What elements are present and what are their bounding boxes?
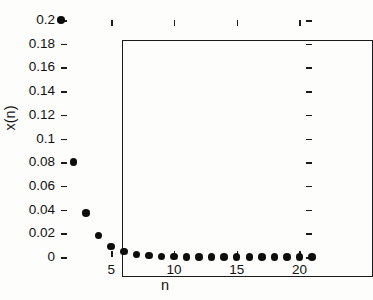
- y-tick-mark-right: [306, 115, 312, 117]
- x-tick-label: 15: [217, 263, 257, 277]
- plot-frame: [122, 40, 373, 277]
- data-point: [170, 253, 178, 261]
- data-point: [308, 253, 316, 261]
- y-tick-mark-right: [306, 67, 312, 69]
- y-tick-mark-right: [306, 139, 312, 141]
- y-tick-label: 0: [0, 250, 55, 264]
- data-point: [195, 253, 203, 261]
- x-tick-mark-top: [111, 20, 113, 26]
- data-point: [296, 253, 304, 261]
- y-tick-mark: [61, 162, 67, 164]
- y-tick-mark-right: [306, 44, 312, 46]
- y-tick-mark-right: [306, 233, 312, 235]
- y-tick-label: 0.2: [0, 13, 55, 27]
- x-tick-label: 10: [154, 263, 194, 277]
- y-axis-title: x(n): [2, 106, 18, 131]
- plot-area: [61, 20, 312, 257]
- x-axis-title: n: [0, 277, 330, 293]
- y-tick-mark: [61, 115, 67, 117]
- y-tick-mark: [61, 233, 67, 235]
- data-point: [220, 253, 228, 261]
- y-tick-mark-right: [306, 91, 312, 93]
- y-tick-mark: [61, 257, 67, 259]
- data-point: [133, 251, 141, 259]
- y-tick-label: 0.16: [0, 60, 55, 74]
- data-point: [120, 248, 128, 256]
- data-point: [107, 243, 115, 251]
- x-tick-label: 5: [91, 263, 131, 277]
- data-point: [70, 158, 78, 166]
- data-point: [183, 253, 191, 261]
- data-point: [283, 253, 291, 261]
- y-tick-label: 0.04: [0, 203, 55, 217]
- data-point: [208, 253, 216, 261]
- x-tick-mark-top: [237, 20, 239, 26]
- y-tick-label: 0.14: [0, 84, 55, 98]
- x-tick-mark-top: [174, 20, 176, 26]
- y-tick-mark: [61, 139, 67, 141]
- data-point: [258, 253, 266, 261]
- y-tick-mark-right: [306, 162, 312, 164]
- y-tick-label: 0.02: [0, 226, 55, 240]
- x-tick-mark: [111, 251, 113, 257]
- y-tick-label: 0.08: [0, 155, 55, 169]
- data-point: [82, 209, 90, 217]
- y-tick-label: 0.06: [0, 179, 55, 193]
- data-point: [95, 232, 103, 240]
- y-tick-mark: [61, 67, 67, 69]
- y-tick-label: 0.1: [0, 132, 55, 146]
- y-tick-mark-right: [306, 20, 312, 22]
- y-tick-mark: [61, 186, 67, 188]
- y-tick-mark: [61, 210, 67, 212]
- y-tick-mark: [61, 44, 67, 46]
- x-tick-mark-top: [299, 20, 301, 26]
- data-point: [57, 16, 65, 24]
- data-point: [246, 253, 254, 261]
- x-tick-label: 20: [279, 263, 319, 277]
- data-point: [158, 253, 166, 261]
- y-tick-mark-right: [306, 186, 312, 188]
- y-tick-mark-right: [306, 210, 312, 212]
- y-tick-mark: [61, 91, 67, 93]
- y-tick-label: 0.18: [0, 37, 55, 51]
- data-point: [271, 253, 279, 261]
- data-point: [145, 252, 153, 260]
